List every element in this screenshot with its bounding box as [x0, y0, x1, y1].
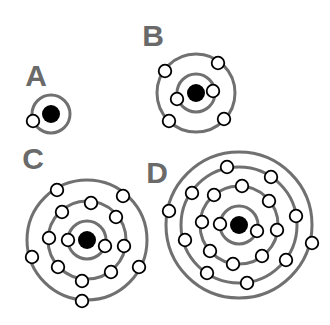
- electron: [163, 205, 176, 218]
- atom-a: A: [25, 59, 70, 133]
- electron: [280, 254, 293, 267]
- electron: [159, 65, 172, 78]
- bohr-models-diagram: A B C D: [0, 0, 330, 325]
- electron: [214, 218, 227, 231]
- electron: [204, 245, 217, 258]
- nucleus: [42, 105, 60, 123]
- electron: [186, 187, 199, 200]
- electron: [306, 237, 319, 250]
- electron: [133, 261, 146, 274]
- atom-c-label: C: [22, 142, 44, 175]
- electron: [62, 234, 75, 247]
- electron: [43, 232, 56, 245]
- electron: [26, 251, 39, 264]
- electron: [218, 113, 231, 126]
- electron: [201, 267, 214, 280]
- electron: [212, 57, 225, 70]
- electron: [163, 115, 176, 128]
- atom-d: D: [146, 152, 318, 298]
- electron: [56, 206, 69, 219]
- electron: [171, 93, 184, 106]
- electron: [105, 266, 118, 279]
- electron: [118, 240, 131, 253]
- electron: [236, 180, 249, 193]
- electron: [52, 261, 65, 274]
- electron: [265, 171, 278, 184]
- electron: [207, 85, 220, 98]
- electron: [99, 240, 112, 253]
- electron: [208, 189, 221, 202]
- electron: [76, 295, 89, 308]
- electron: [179, 234, 192, 247]
- nucleus: [78, 231, 96, 249]
- atom-a-label: A: [25, 59, 47, 92]
- electron: [117, 190, 130, 203]
- atom-b: B: [142, 19, 235, 132]
- electron: [271, 224, 284, 237]
- electron: [51, 184, 64, 197]
- electron: [196, 216, 209, 229]
- electron: [85, 197, 98, 210]
- electron: [27, 115, 40, 128]
- electron: [227, 258, 240, 271]
- electron: [76, 275, 89, 288]
- electron: [290, 210, 303, 223]
- atom-d-label: D: [146, 156, 168, 189]
- electron: [221, 161, 234, 174]
- electron: [110, 211, 123, 224]
- atom-b-label: B: [142, 19, 164, 52]
- atom-c: C: [22, 142, 147, 307]
- electron: [263, 195, 276, 208]
- nucleus: [230, 216, 248, 234]
- electron: [251, 225, 264, 238]
- electron: [241, 277, 254, 290]
- nucleus: [187, 84, 205, 102]
- electron: [256, 250, 269, 263]
